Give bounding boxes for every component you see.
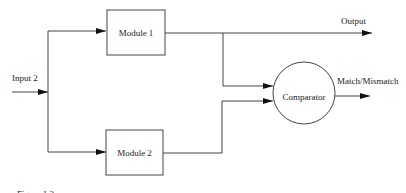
module1-block: Module 1 (107, 10, 165, 55)
figure-caption: Figure 1.2 (17, 189, 54, 193)
module2-block: Module 2 (106, 130, 163, 175)
module2-to-comparator-arrow (163, 101, 273, 153)
comparator-block: Comparator (273, 62, 335, 124)
comparator-label: Comparator (283, 92, 326, 102)
module1-to-comparator-arrow (223, 33, 273, 86)
match-mismatch-label: Match/Mismatch (337, 76, 399, 86)
module1-label: Module 1 (119, 28, 154, 38)
block-diagram: Input 2 Module 1 Module 2 Output Compara… (0, 0, 406, 193)
output-label: Output (341, 16, 367, 26)
module2-label: Module 2 (117, 148, 152, 158)
input-label: Input 2 (12, 73, 38, 83)
